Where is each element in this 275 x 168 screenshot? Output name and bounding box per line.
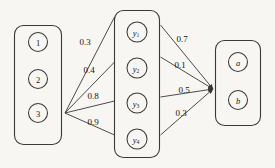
edge-weight-n3-y1: 0.3 [79, 37, 91, 47]
edge-weight-n3-y4: 0.9 [87, 117, 99, 127]
node-y1-label: y1 [132, 28, 140, 39]
node-b-label: b [236, 96, 240, 106]
edge-weight-y2-b: 0.1 [174, 60, 185, 70]
node-y2-sub: 2 [136, 68, 139, 74]
edge-weight-y4-b: 0.3 [175, 108, 187, 118]
node-n1-label: 1 [36, 38, 40, 48]
output-group-box [216, 41, 261, 126]
node-y3-sub: 3 [136, 103, 139, 109]
node-y2-label: y2 [132, 64, 140, 75]
edge-weight-n3-y3: 0.8 [87, 91, 99, 101]
node-n3-label: 3 [36, 109, 40, 119]
node-y4-sub: 4 [136, 139, 139, 145]
node-y1-sub: 1 [136, 32, 139, 38]
node-y4-label: y4 [132, 135, 140, 146]
diagram-canvas: 1 2 3 y1 y2 y3 y4 a b 0.3 0.4 0.8 0.9 [0, 0, 275, 168]
node-a-label: a [236, 58, 240, 68]
edge-weight-y3-b: 0.5 [178, 85, 190, 95]
node-n2-label: 2 [36, 75, 40, 85]
node-y3-label: y3 [132, 99, 140, 110]
edge-n3-y3 [65, 101, 115, 113]
edge-weight-n3-y2: 0.4 [83, 65, 95, 75]
edge-weight-y1-b: 0.7 [176, 34, 188, 44]
